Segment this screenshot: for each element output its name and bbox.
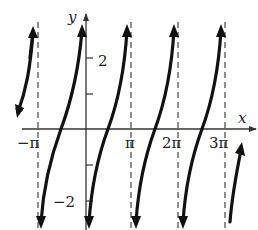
branch-2pi-to-3pi	[183, 30, 221, 222]
arrow-down-5	[178, 216, 188, 229]
arrow-down-1	[15, 104, 24, 118]
x-tick-pi: π	[125, 134, 135, 152]
x-tick-3pi: 3π	[209, 134, 229, 152]
y-tick-neg2: −2	[53, 193, 75, 211]
y-tick-2: 2	[98, 52, 108, 70]
arrow-up-1	[28, 26, 38, 38]
x-axis-label: x	[238, 109, 247, 127]
y-axis-label: y	[67, 8, 77, 26]
branch-0-to-pi	[89, 30, 127, 222]
arrowheads	[15, 24, 245, 229]
arrow-down-4	[131, 216, 141, 229]
x-tick-2pi: 2π	[162, 134, 182, 152]
x-tick-neg-pi: −π	[17, 134, 40, 152]
branch-3pi-partial	[230, 150, 241, 222]
arrow-up-6	[235, 142, 245, 156]
branch-pi-to-2pi	[136, 30, 174, 222]
cotangent-graph: y x 2 −2 −π π 2π 3π	[0, 0, 258, 230]
curve	[18, 30, 241, 222]
